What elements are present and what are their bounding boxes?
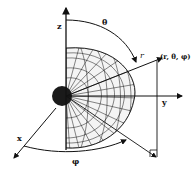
r-label: r bbox=[140, 52, 144, 60]
theta-label: θ bbox=[102, 18, 107, 26]
y-axis-label: y bbox=[162, 98, 167, 106]
hemisphere-mesh bbox=[66, 44, 138, 152]
phi-label: φ bbox=[72, 157, 79, 165]
x-axis-label: x bbox=[17, 134, 22, 142]
spherical-coordinates-diagram bbox=[0, 0, 194, 169]
z-axis-label: z bbox=[57, 22, 62, 30]
point-label: (r, θ, φ) bbox=[160, 53, 191, 60]
